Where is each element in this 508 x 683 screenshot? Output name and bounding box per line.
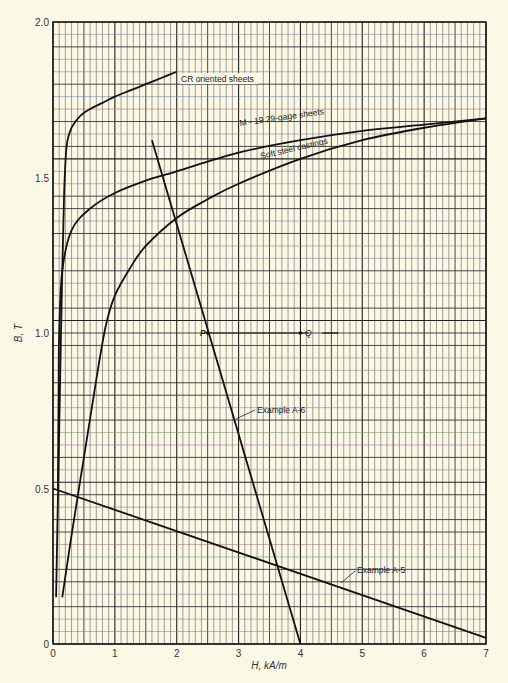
curve-m-19-29-gage-sheets bbox=[58, 118, 486, 488]
x-tick-label: 3 bbox=[236, 648, 242, 659]
point-q bbox=[299, 331, 303, 335]
point-p-label: P bbox=[200, 328, 206, 338]
x-tick-label: 7 bbox=[483, 648, 489, 659]
point-p bbox=[206, 331, 210, 335]
x-tick-label: 0 bbox=[50, 648, 56, 659]
leader-example-a5 bbox=[341, 571, 355, 583]
bh-chart: 0123456700.51.01.52.0 H, kA/m B, T CR or… bbox=[0, 0, 508, 683]
y-tick-label: 0 bbox=[43, 639, 49, 650]
y-tick-label: 1.5 bbox=[35, 173, 49, 184]
label-example-a6: Example A-6 bbox=[257, 405, 305, 415]
point-q-label: Q bbox=[305, 328, 312, 338]
y-tick-label: 1.0 bbox=[35, 328, 49, 339]
y-tick-label: 0.5 bbox=[35, 484, 49, 495]
x-axis-title: H, kA/m bbox=[251, 660, 287, 671]
x-tick-label: 5 bbox=[360, 648, 366, 659]
label-cr-oriented-sheets: CR oriented sheets bbox=[181, 74, 254, 84]
x-tick-label: 4 bbox=[298, 648, 304, 659]
y-axis-title: B, T bbox=[13, 323, 24, 342]
y-tick-label: 2.0 bbox=[35, 17, 49, 28]
x-tick-label: 1 bbox=[112, 648, 118, 659]
label-example-a5: Example A-5 bbox=[357, 565, 405, 575]
x-tick-label: 2 bbox=[174, 648, 180, 659]
x-tick-label: 6 bbox=[421, 648, 427, 659]
